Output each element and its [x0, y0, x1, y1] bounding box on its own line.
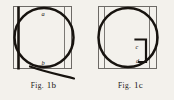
figure-plate: a b Fig. 1b c d Fig. — [0, 0, 174, 100]
figure-1c-caption-number: 1c — [134, 80, 143, 90]
figure-1b-drawing: a b — [0, 0, 87, 80]
label-c: c — [136, 43, 139, 50]
figure-1b-caption-prefix: Fig. — [31, 81, 44, 90]
figure-1b: a b Fig. 1b — [0, 0, 87, 100]
inscribed-circle — [99, 8, 158, 67]
figure-1b-caption: Fig. 1b — [0, 80, 87, 90]
figure-1b-caption-number: 1b — [47, 80, 57, 90]
label-a: a — [42, 10, 45, 17]
label-b: b — [42, 59, 45, 66]
figure-1c-drawing: c d — [87, 0, 174, 80]
figure-1c: c d Fig. 1c — [87, 0, 174, 100]
figure-1c-caption: Fig. 1c — [87, 80, 174, 90]
figure-1c-caption-prefix: Fig. — [118, 81, 131, 90]
